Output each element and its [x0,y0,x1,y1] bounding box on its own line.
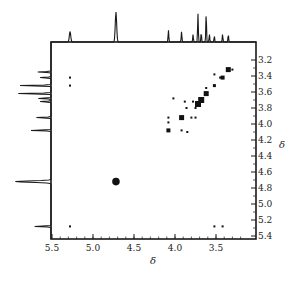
cross-peak [204,91,209,96]
cross-peak [195,117,197,119]
cross-peak [167,117,169,119]
plot-frame [51,42,256,239]
top-1d-spectrum [51,12,256,42]
cross-peak [184,101,186,103]
cross-peak [213,73,215,75]
y-axis-ticks: 3.23.43.63.84.04.24.44.64.85.05.25.4 [251,55,273,241]
y-tick-label: 3.8 [258,103,273,113]
y-tick-label: 3.4 [258,71,273,81]
cross-peaks [69,67,233,227]
x-tick-label: 3.5 [209,243,224,253]
cross-peak [166,128,170,132]
cross-peak [219,77,221,79]
y-tick-label: 3.6 [258,87,273,97]
y-tick-label: 5.2 [258,215,272,225]
cross-peak [179,115,184,120]
cross-peak [181,129,183,131]
y-tick-label: 5.0 [258,199,273,209]
cross-peak [226,67,231,72]
cross-peak [213,225,215,227]
cross-peak [69,225,71,227]
x-tick-label: 5.5 [45,243,60,253]
y-tick-label: 4.4 [258,151,273,161]
cross-peak [195,101,201,107]
cross-peak [186,107,188,109]
y-tick-label: 3.2 [258,55,272,65]
cross-peak [190,117,192,119]
x-axis-title: δ [150,255,156,266]
cross-peak [195,107,197,109]
cross-peak [222,225,224,227]
cross-peak [172,97,174,99]
left-1d-spectrum [15,42,51,239]
y-axis-title: δ [279,139,285,150]
cross-peak [213,84,216,87]
cosy-figure: 5.55.04.54.03.5 3.23.43.63.84.04.24.44.6… [0,0,297,282]
y-tick-label: 4.8 [258,183,273,193]
x-tick-label: 4.0 [168,243,183,253]
cross-peak [167,121,169,123]
x-tick-label: 4.5 [127,243,142,253]
cross-peak [231,69,233,71]
x-tick-label: 5.0 [86,243,101,253]
x-axis-ticks: 5.55.04.54.03.5 [45,234,241,253]
cross-peak [69,77,71,79]
y-tick-label: 5.4 [258,231,273,241]
y-tick-label: 4.2 [258,135,272,145]
cross-peak [192,101,194,103]
cross-peak [221,76,225,80]
y-tick-label: 4.0 [258,119,273,129]
y-tick-label: 4.6 [258,167,273,177]
cross-peak [69,85,71,87]
cross-peak [186,131,188,133]
cross-peak [205,87,207,89]
